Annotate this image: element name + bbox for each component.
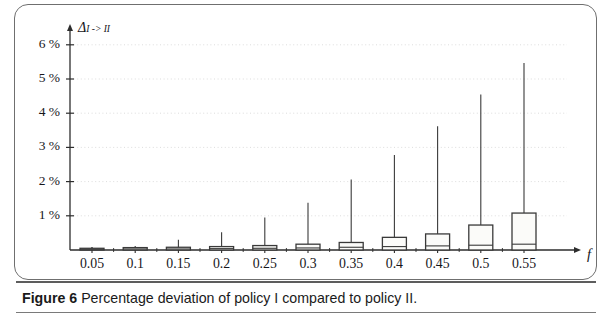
boxplot-box — [166, 240, 190, 250]
figure-caption: Figure 6 Percentage deviation of policy … — [22, 289, 602, 307]
x-tick-label: 0.3 — [299, 256, 316, 272]
box-rect — [382, 237, 406, 250]
y-tick-label: 5 % — [14, 70, 60, 86]
x-tick-label: 0.1 — [127, 256, 144, 272]
x-tick-label: 0.35 — [339, 256, 363, 272]
x-tick-label: 0.2 — [213, 256, 230, 272]
caption-divider-top — [16, 281, 596, 283]
y-tick-label: 3 % — [14, 138, 60, 154]
box-rect — [339, 242, 363, 250]
boxplot-box — [253, 218, 277, 250]
figure-caption-text: Percentage deviation of policy I compare… — [77, 290, 417, 306]
y-tick-label: 4 % — [14, 104, 60, 120]
boxplot-box — [512, 63, 536, 250]
caption-divider-bottom — [16, 312, 596, 313]
y-axis-title: ΔI -> II — [78, 20, 110, 36]
y-tick-label: 1 % — [14, 207, 60, 223]
x-axis-title: f — [587, 246, 591, 263]
boxplot-box — [296, 203, 320, 250]
x-tick-label: 0.55 — [512, 256, 536, 272]
x-tick-label: 0.25 — [253, 256, 277, 272]
x-tick-label: 0.15 — [166, 256, 190, 272]
box-rect — [296, 244, 320, 250]
box-rect — [469, 225, 493, 250]
y-tick-label: 2 % — [14, 173, 60, 189]
chart-plot-area — [0, 0, 611, 283]
y-axis-arrow-icon — [67, 24, 73, 31]
x-tick-label: 0.05 — [80, 256, 104, 272]
boxplot-box — [426, 126, 450, 250]
x-axis-arrow-icon — [574, 247, 581, 253]
x-tick-label: 0.45 — [426, 256, 450, 272]
box-rect — [426, 234, 450, 250]
figure-container: ΔI -> II f 1 %2 %3 %4 %5 %6 % 0.050.10.1… — [0, 0, 611, 323]
figure-caption-label: Figure 6 — [22, 290, 77, 306]
x-tick-label: 0.4 — [386, 256, 403, 272]
boxplot-box — [382, 155, 406, 250]
boxplot-box — [123, 246, 147, 250]
boxplot-box — [339, 180, 363, 250]
x-tick-label: 0.5 — [472, 256, 489, 272]
y-axis-title-subscript: I -> II — [86, 24, 110, 34]
boxplot-box — [469, 94, 493, 250]
boxplot-chart — [0, 0, 611, 283]
y-axis-title-delta: Δ — [78, 20, 86, 35]
boxplot-box — [80, 248, 104, 250]
y-tick-label: 6 % — [14, 36, 60, 52]
boxplot-box — [210, 232, 234, 250]
